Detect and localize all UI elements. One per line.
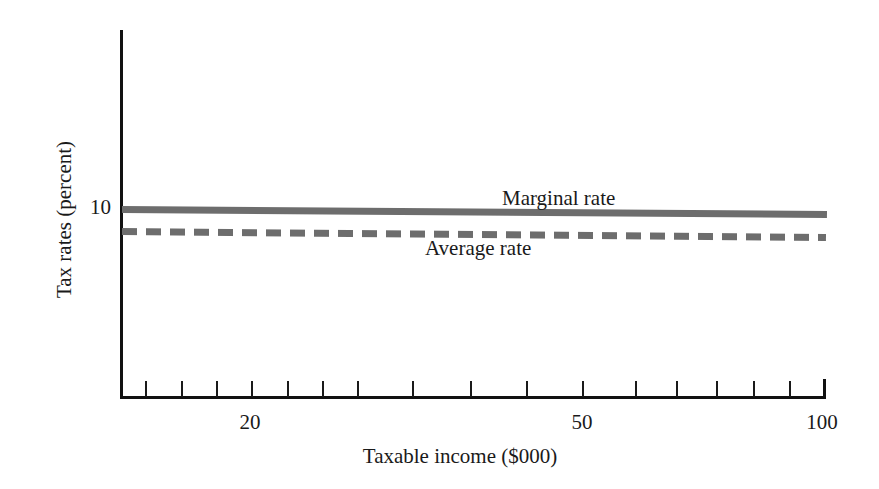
x-axis-tick (753, 381, 755, 397)
chart-figure: Marginal rate Average rate 10 Tax rates … (0, 0, 879, 489)
x-axis-end-tick (823, 379, 826, 399)
x-axis-tick (251, 381, 253, 397)
x-axis-tick (412, 381, 414, 397)
x-axis-title: Taxable income ($000) (363, 444, 557, 469)
x-axis-tick (357, 381, 359, 397)
x-axis-tick (145, 381, 147, 397)
x-axis-tick (526, 381, 528, 397)
y-axis-title: Tax rates (percent) (52, 120, 77, 320)
series-label-marginal-rate: Marginal rate (502, 186, 615, 211)
x-axis-tick (181, 381, 183, 397)
plot-area (122, 150, 826, 290)
series-line-marginal-rate (122, 206, 827, 218)
x-axis-tick (470, 381, 472, 397)
x-axis-tick (216, 381, 218, 397)
x-axis-tick-label-20: 20 (240, 410, 261, 435)
x-axis-tick (287, 381, 289, 397)
series-label-average-rate: Average rate (425, 236, 531, 261)
x-axis-tick (676, 381, 678, 397)
y-axis-tick-label-10: 10 (90, 195, 111, 220)
x-axis-tick-label-50: 50 (572, 410, 593, 435)
x-axis-tick (635, 381, 637, 397)
x-axis-tick (716, 381, 718, 397)
x-axis-tick (322, 381, 324, 397)
x-axis-tick (789, 381, 791, 397)
x-axis-tick (582, 381, 584, 397)
x-axis-line (120, 396, 826, 399)
x-axis-tick-label-100: 100 (806, 410, 838, 435)
